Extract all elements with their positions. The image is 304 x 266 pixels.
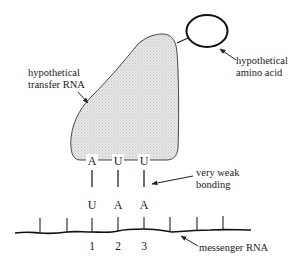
amino-acid-connector xyxy=(177,38,188,43)
anticodon-base-1: A xyxy=(88,154,97,168)
position-number-2: 2 xyxy=(115,240,121,252)
amino-acid-label-line1: hypothetical xyxy=(236,55,288,66)
trna-mrna-diagram: A U U hypothetical amino acid hypothetic… xyxy=(0,0,304,266)
messenger-rna-strand xyxy=(15,229,251,233)
bonding-arrow-icon xyxy=(152,176,193,184)
transfer-rna-label-line1: hypothetical xyxy=(28,67,80,78)
codon-base-2: A xyxy=(114,198,123,212)
transfer-rna-arrow-icon xyxy=(78,92,88,103)
transfer-rna-label-line2: transfer RNA xyxy=(28,79,85,90)
anticodon-base-2: U xyxy=(114,154,123,168)
position-number-1: 1 xyxy=(89,240,95,252)
anticodon-base-3: U xyxy=(140,154,149,168)
codon-base-3: A xyxy=(140,198,149,212)
codon-base-1: U xyxy=(88,198,97,212)
bonding-label-line1: very weak xyxy=(196,167,240,178)
messenger-rna-label: messenger RNA xyxy=(199,242,269,253)
transfer-rna-shape xyxy=(71,34,179,160)
bonding-label-line2: bonding xyxy=(196,179,231,190)
amino-acid-label-line2: amino acid xyxy=(236,67,283,78)
amino-acid-circle xyxy=(187,15,228,47)
messenger-rna-arrow-icon xyxy=(181,236,198,246)
position-number-3: 3 xyxy=(141,240,147,252)
amino-acid-arrow-icon xyxy=(220,49,236,60)
